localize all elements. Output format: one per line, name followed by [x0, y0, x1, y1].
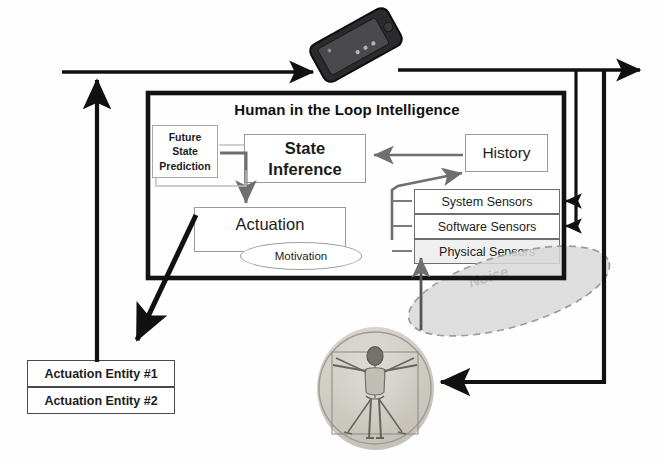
- vitruvian-man-icon: [319, 332, 431, 444]
- noise-ellipse: [399, 228, 619, 355]
- smartphone-icon: [307, 5, 404, 84]
- arrow-state-inference-to-actuation: [220, 153, 246, 203]
- diagram-vector-layer: [0, 0, 663, 463]
- feedback-loop-fsp: [156, 170, 246, 186]
- arrow-sensors-to-history: [392, 173, 462, 240]
- diagram-canvas: Human in the Loop Intelligence Future St…: [0, 0, 663, 463]
